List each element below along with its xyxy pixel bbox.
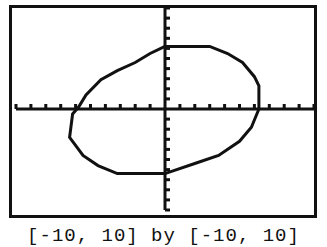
x-tick	[15, 104, 18, 109]
x-tick	[268, 104, 271, 109]
x-tick	[104, 104, 107, 109]
x-tick	[223, 104, 226, 109]
x-tick	[178, 104, 181, 109]
y-tick	[165, 97, 170, 100]
y-tick	[165, 67, 170, 70]
x-tick	[89, 104, 92, 109]
y-tick	[165, 148, 170, 151]
y-tick	[165, 158, 170, 161]
y-tick	[165, 87, 170, 90]
y-tick	[165, 209, 170, 212]
x-tick	[193, 104, 196, 109]
window-caption: [-10, 10] by [-10, 10]	[0, 225, 327, 247]
x-tick	[298, 104, 301, 109]
y-tick	[165, 77, 170, 80]
x-tick	[134, 104, 137, 109]
x-tick	[59, 104, 62, 109]
x-tick	[253, 104, 256, 109]
y-tick	[165, 138, 170, 141]
x-tick	[29, 104, 32, 109]
y-tick	[165, 118, 170, 121]
y-tick	[165, 128, 170, 131]
x-tick	[238, 104, 241, 109]
y-tick	[165, 27, 170, 30]
x-tick	[44, 104, 47, 109]
y-tick	[165, 188, 170, 191]
y-tick	[165, 17, 170, 20]
y-tick	[165, 198, 170, 201]
x-tick	[283, 104, 286, 109]
x-tick	[149, 104, 152, 109]
graph-screen	[9, 5, 317, 218]
x-tick	[119, 104, 122, 109]
y-tick	[165, 37, 170, 40]
x-tick	[313, 104, 315, 109]
y-tick	[165, 57, 170, 60]
x-tick	[208, 104, 211, 109]
y-tick	[165, 8, 170, 10]
y-tick	[165, 178, 170, 181]
plot-area	[12, 8, 314, 215]
